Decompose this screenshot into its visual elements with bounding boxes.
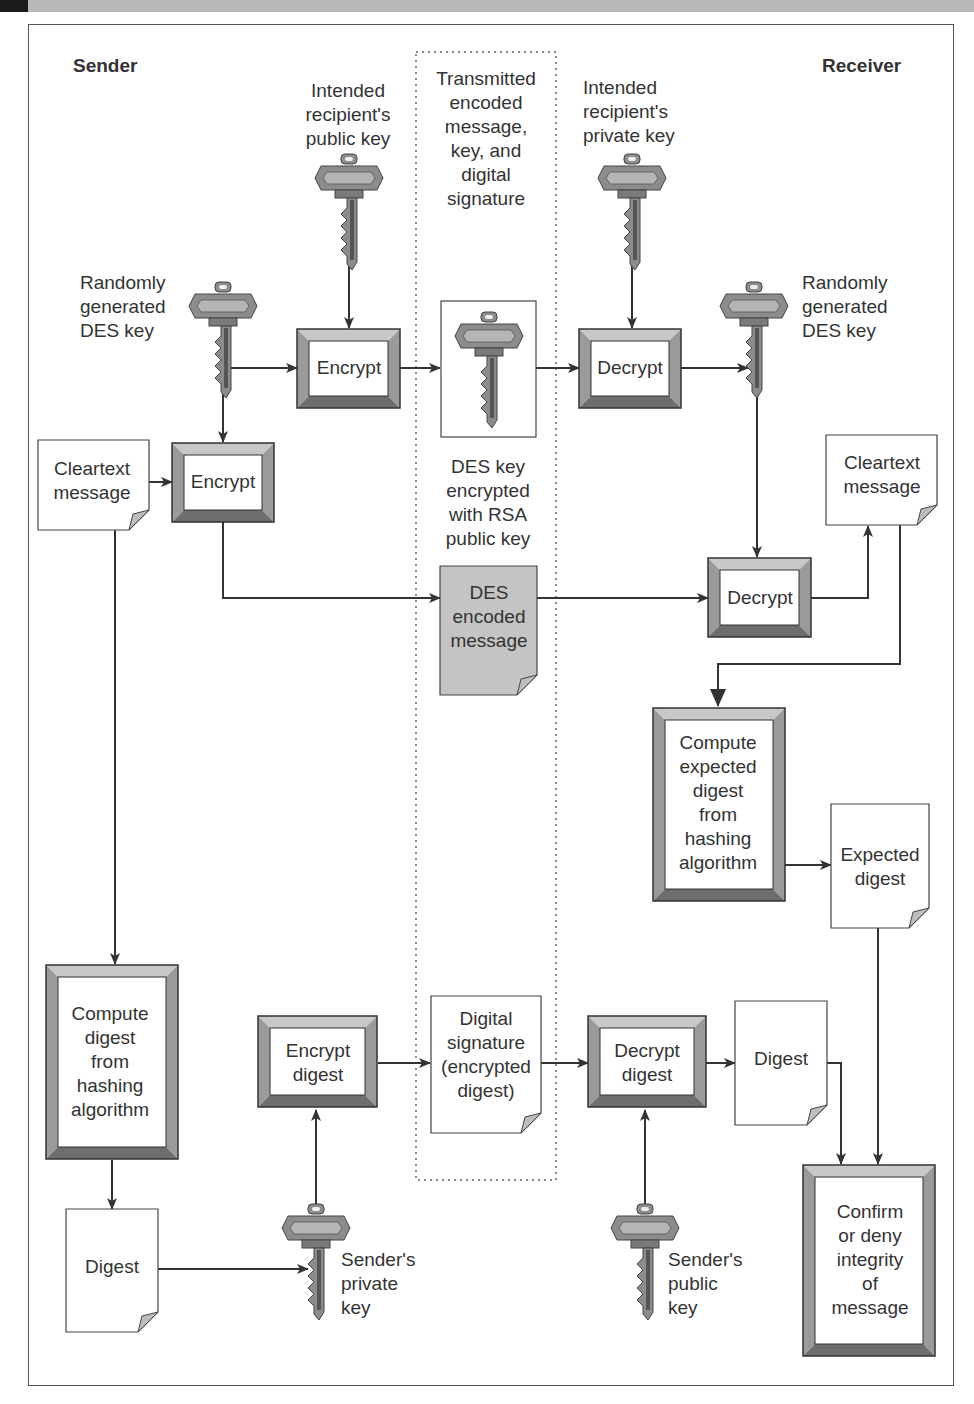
doc-expected-digest: Expected digest <box>832 843 928 891</box>
key-icon-recipient-public <box>315 154 383 270</box>
process-encrypt-key: Encrypt <box>309 356 389 380</box>
key-icon-sender-private <box>282 1204 350 1320</box>
des-key-receiver-label: Randomly generated DES key <box>802 271 912 343</box>
process-decrypt-digest: Decrypt digest <box>599 1039 695 1087</box>
sender-heading: Sender <box>73 55 137 77</box>
doc-digest-sender: Digest <box>66 1255 158 1279</box>
key-icon-recipient-private <box>598 154 666 270</box>
receiver-heading: Receiver <box>822 55 901 77</box>
doc-digest-receiver: Digest <box>736 1047 826 1071</box>
process-compute-expected-digest: Compute expected digest from hashing alg… <box>668 731 768 875</box>
process-compute-digest: Compute digest from hashing algorithm <box>60 1002 160 1122</box>
process-decrypt-message: Decrypt <box>720 586 800 610</box>
des-key-sender-label: Randomly generated DES key <box>80 271 190 343</box>
transmitted-label: Transmitted encoded message, key, and di… <box>418 67 554 211</box>
process-confirm-integrity: Confirm or deny integrity of message <box>820 1200 920 1320</box>
des-key-encrypted-label: DES key encrypted with RSA public key <box>426 455 550 551</box>
doc-cleartext-sender: Cleartext message <box>40 457 144 505</box>
process-encrypt-message: Encrypt <box>183 470 263 494</box>
recipient-private-key-label: Intended recipient's private key <box>583 76 703 148</box>
doc-des-encoded-message: DES encoded message <box>441 581 537 653</box>
process-encrypt-digest: Encrypt digest <box>270 1039 366 1087</box>
recipient-public-key-label: Intended recipient's public key <box>292 79 404 151</box>
sender-private-key-label: Sender's private key <box>341 1248 441 1320</box>
doc-cleartext-receiver: Cleartext message <box>829 451 935 499</box>
doc-digital-signature: Digital signature (encrypted digest) <box>430 1007 542 1103</box>
key-icon-des-receiver <box>720 282 788 398</box>
key-icon-des-sender <box>189 282 257 398</box>
process-decrypt-key: Decrypt <box>590 356 670 380</box>
sender-public-key-label: Sender's public key <box>668 1248 768 1320</box>
